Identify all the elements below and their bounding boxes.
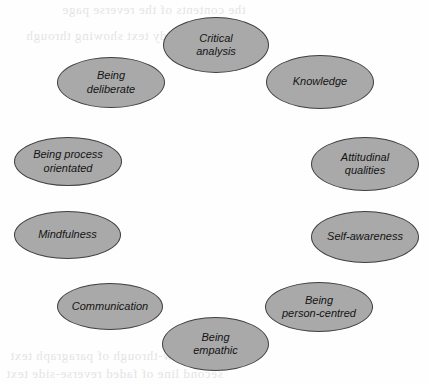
- node-being-process-orientated[interactable]: Being process orientated: [14, 137, 122, 186]
- node-self-awareness[interactable]: Self-awareness: [311, 211, 419, 263]
- node-label: Self-awareness: [321, 230, 409, 244]
- node-communication[interactable]: Communication: [57, 283, 163, 330]
- node-label: Being deliberate: [81, 69, 141, 96]
- node-label: Being empathic: [187, 331, 244, 358]
- node-mindfulness[interactable]: Mindfulness: [14, 211, 121, 259]
- node-layer: Critical analysisKnowledgeAttitudinal qu…: [0, 0, 429, 384]
- node-being-deliberate[interactable]: Being deliberate: [57, 57, 165, 108]
- node-label: Critical analysis: [190, 32, 242, 59]
- node-attitudinal-qualities[interactable]: Attitudinal qualities: [311, 137, 419, 191]
- node-knowledge[interactable]: Knowledge: [266, 55, 374, 109]
- node-label: Attitudinal qualities: [335, 151, 395, 178]
- node-being-person-centred[interactable]: Being person-centred: [265, 282, 373, 332]
- node-label: Knowledge: [287, 75, 353, 89]
- circular-concept-diagram: the contents of the reverse pagefaint mi…: [0, 0, 429, 384]
- node-label: Being process orientated: [27, 148, 109, 175]
- node-label: Communication: [66, 300, 154, 314]
- node-label: Mindfulness: [32, 228, 103, 242]
- node-being-empathic[interactable]: Being empathic: [162, 317, 269, 371]
- node-critical-analysis[interactable]: Critical analysis: [163, 17, 269, 73]
- node-label: Being person-centred: [276, 294, 362, 321]
